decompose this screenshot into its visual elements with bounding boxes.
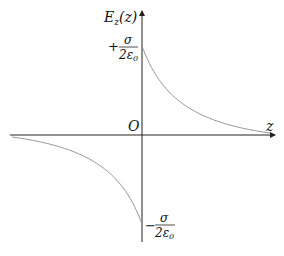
- svg-text:2ε0: 2ε0: [154, 226, 174, 241]
- top-value-label: + σ 2ε0: [108, 33, 138, 63]
- svg-text:σ: σ: [160, 211, 169, 225]
- x-axis-label: z: [265, 118, 274, 134]
- negative-curve: [12, 137, 142, 224]
- y-axis-label: Ez(z): [103, 9, 137, 27]
- svg-text:2ε0: 2ε0: [118, 48, 138, 63]
- field-diagram: Ez(z) O z + σ 2ε0 − σ 2ε0: [0, 0, 284, 256]
- positive-curve: [142, 46, 270, 133]
- bottom-value-label: − σ 2ε0: [145, 211, 175, 241]
- svg-text:σ: σ: [124, 33, 133, 47]
- origin-label: O: [128, 118, 140, 134]
- svg-text:+: +: [108, 39, 119, 54]
